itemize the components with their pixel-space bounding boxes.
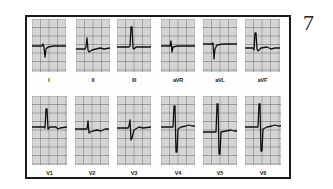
ecg-grid [76,19,110,72]
lead-panel-v6 [245,96,281,165]
ecg-grid [117,19,151,72]
ecg-grid [245,96,281,165]
lead-label: V3 [117,170,151,176]
lead-label: III [117,77,151,83]
lead-label: V5 [203,170,237,176]
ecg-grid [203,19,237,72]
ecg-grid [161,96,195,165]
lead-panel-avf [245,19,280,72]
ecg-grid [203,96,237,165]
ecg-grid [245,19,280,72]
ecg-grid [161,19,195,72]
lead-panel-i [32,19,66,72]
ecg-grid [117,96,151,165]
ecg-grid [32,96,67,165]
lead-panel-v1 [32,96,67,165]
lead-panel-avl [203,19,237,72]
lead-label: V4 [161,170,195,176]
lead-panel-v4 [161,96,195,165]
figure-number: 7 [303,12,314,34]
ecg-grid [32,19,66,72]
lead-label: aVL [203,77,237,83]
lead-label: aVR [161,77,195,83]
lead-panel-iii [117,19,151,72]
lead-label: V6 [245,170,281,176]
ecg-grid [75,96,109,165]
lead-panel-v2 [75,96,109,165]
lead-label: aVF [245,77,280,83]
lead-label: V1 [32,170,67,176]
lead-panel-v5 [203,96,237,165]
lead-label: I [32,77,66,83]
lead-panel-v3 [117,96,151,165]
lead-label: II [76,77,110,83]
lead-label: V2 [75,170,109,176]
lead-panel-avr [161,19,195,72]
lead-panel-ii [76,19,110,72]
